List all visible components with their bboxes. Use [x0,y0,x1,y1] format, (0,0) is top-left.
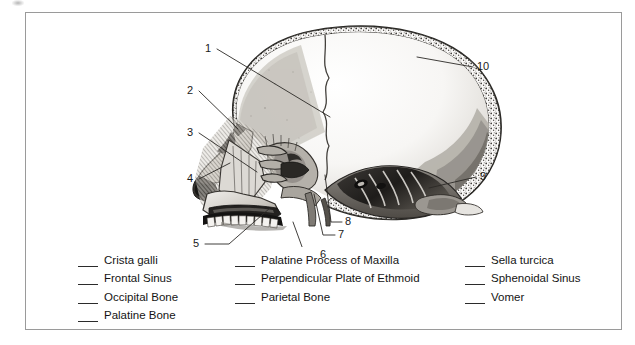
answer-row[interactable]: Vomer [465,285,581,304]
callout-number-10: 10 [477,61,489,72]
answer-term-list: Crista galli Frontal Sinus Occipital Bon… [25,248,622,330]
worksheet-page: 1 2 3 4 5 6 7 8 10 9 Crista galli Fronta… [0,0,635,345]
answer-blank[interactable] [78,292,98,304]
answer-blank[interactable] [78,255,98,267]
answer-row[interactable]: Parietal Bone [235,285,420,304]
callout-number-1: 1 [205,43,211,54]
answer-row[interactable]: Crista galli [78,248,178,267]
answer-term-label: Sella turcica [491,254,554,267]
callout-number-9: 9 [480,171,486,182]
answer-term-label: Palatine Process of Maxilla [261,254,399,267]
answer-row[interactable]: Palatine Process of Maxilla [235,248,420,267]
answer-term-label: Perpendicular Plate of Ethmoid [261,272,420,285]
answer-term-label: Occipital Bone [104,291,178,304]
skull-illustration [25,12,622,247]
answer-term-label: Parietal Bone [261,291,330,304]
answer-column-middle: Palatine Process of Maxilla Perpendicula… [235,248,420,304]
callout-number-8: 8 [345,216,351,227]
answer-term-label: Vomer [491,291,524,304]
answer-blank[interactable] [465,255,485,267]
answer-row[interactable]: Palatine Bone [78,304,178,323]
answer-row[interactable]: Occipital Bone [78,285,178,304]
answer-blank[interactable] [235,292,255,304]
answer-blank[interactable] [235,255,255,267]
callout-number-2: 2 [187,85,193,96]
answer-row[interactable]: Sphenoidal Sinus [465,267,581,286]
answer-row[interactable]: Frontal Sinus [78,267,178,286]
answer-row[interactable]: Perpendicular Plate of Ethmoid [235,267,420,286]
scan-artifact [12,0,24,6]
answer-column-right: Sella turcica Sphenoidal Sinus Vomer [465,248,581,304]
answer-blank[interactable] [465,273,485,285]
answer-blank[interactable] [78,310,98,322]
callout-number-4: 4 [187,173,193,184]
answer-term-label: Crista galli [104,254,158,267]
answer-blank[interactable] [78,273,98,285]
skull-figure: 1 2 3 4 5 6 7 8 10 9 [25,12,622,247]
answer-column-left: Crista galli Frontal Sinus Occipital Bon… [78,248,178,322]
answer-term-label: Sphenoidal Sinus [491,272,581,285]
answer-term-label: Palatine Bone [104,309,176,322]
callout-number-3: 3 [187,127,193,138]
answer-blank[interactable] [235,273,255,285]
answer-blank[interactable] [465,292,485,304]
callout-number-7: 7 [338,229,344,240]
answer-term-label: Frontal Sinus [104,272,172,285]
answer-row[interactable]: Sella turcica [465,248,581,267]
